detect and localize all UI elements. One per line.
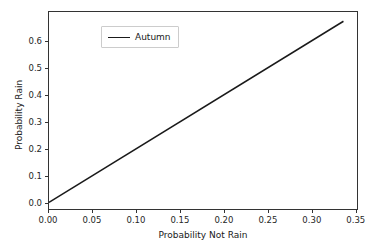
y-tick-label: 0.5 (28, 63, 42, 73)
x-axis-label: Probability Not Rain (48, 230, 358, 240)
x-tick-mark (224, 210, 225, 213)
y-tick-label: 0.3 (28, 117, 42, 127)
x-tick-label: 0.35 (346, 215, 365, 225)
y-tick-label: 0.0 (28, 198, 42, 208)
y-tick-label: 0.4 (28, 90, 42, 100)
data-series-layer (49, 12, 357, 209)
series-line-autumn (49, 21, 343, 202)
y-tick-mark (45, 203, 48, 204)
x-tick-label: 0.05 (83, 215, 102, 225)
x-tick-mark (92, 210, 93, 213)
x-tick-mark (136, 210, 137, 213)
x-tick-label: 0.00 (39, 215, 58, 225)
x-tick-mark (356, 210, 357, 213)
y-tick-label: 0.2 (28, 144, 42, 154)
chart-figure: . . . . . . . . . . . . . . . . . . . . … (0, 0, 369, 250)
y-tick-mark (45, 122, 48, 123)
x-tick-mark (312, 210, 313, 213)
plot-axes: Autumn (48, 11, 358, 210)
chart-legend: Autumn (101, 26, 179, 48)
x-tick-label: 0.25 (258, 215, 277, 225)
y-tick-mark (45, 41, 48, 42)
x-tick-label: 0.30 (302, 215, 321, 225)
y-tick-label: 0.6 (28, 36, 42, 46)
x-tick-mark (268, 210, 269, 213)
truncated-top-text: . . . . . . . . . . . . . . . . . . . . … (0, 0, 369, 7)
y-tick-mark (45, 149, 48, 150)
y-tick-mark (45, 95, 48, 96)
x-tick-label: 0.20 (214, 215, 233, 225)
legend-line-swatch-icon (108, 37, 130, 38)
y-tick-label: 0.1 (28, 171, 42, 181)
x-tick-mark (180, 210, 181, 213)
x-tick-label: 0.15 (170, 215, 189, 225)
y-tick-mark (45, 68, 48, 69)
legend-item-autumn: Autumn (108, 32, 171, 42)
x-tick-label: 0.10 (126, 215, 145, 225)
y-axis-label: Probability Rain (14, 55, 24, 175)
legend-item-label: Autumn (135, 32, 171, 42)
y-tick-mark (45, 176, 48, 177)
plot-area (49, 12, 357, 209)
x-tick-mark (48, 210, 49, 213)
